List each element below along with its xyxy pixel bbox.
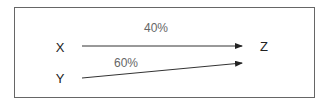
- node-y-label: Y: [56, 71, 65, 86]
- node-x-label: X: [56, 40, 65, 55]
- edge-y-to-z-arrow: [82, 63, 242, 78]
- flow-diagram: X Y Z 40% 60%: [0, 0, 331, 103]
- edge-y-to-z-label: 60%: [114, 56, 138, 70]
- node-z-label: Z: [260, 39, 268, 54]
- edge-x-to-z-label: 40%: [144, 21, 168, 35]
